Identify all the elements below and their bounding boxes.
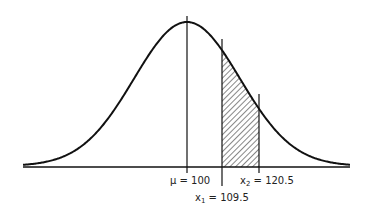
normal-curve-diagram: μ = 100 x2 = 120.5 x1 = 109.5 (0, 0, 368, 215)
x1-label: x1 = 109.5 (195, 192, 249, 205)
x2-label: x2 = 120.5 (240, 175, 294, 188)
shaded-area (222, 50, 259, 167)
mean-label: μ = 100 (170, 175, 210, 186)
